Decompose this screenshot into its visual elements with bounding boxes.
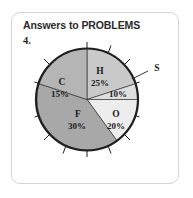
pie-chart: H 25% C 15% F 30% O 20% 10% S xyxy=(26,39,178,159)
slice-label-c-value: 15% xyxy=(51,89,69,99)
slice-label-h-value: 25% xyxy=(91,78,109,88)
page-root: Answers to PROBLEMS 4. xyxy=(0,0,193,198)
slice-label-o-key: O xyxy=(112,109,119,119)
slice-label-f-value: 30% xyxy=(68,121,86,131)
slice-label-c-key: C xyxy=(59,77,66,87)
pie-chart-svg: H 25% C 15% F 30% O 20% 10% S xyxy=(26,39,178,159)
slice-label-f-key: F xyxy=(75,109,81,119)
slice-label-o-value: 20% xyxy=(107,121,125,131)
slice-label-s-key: S xyxy=(154,63,159,73)
slice-label-s-value: 10% xyxy=(109,89,127,99)
slice-s-leader-line xyxy=(132,71,148,79)
slice-label-h-key: H xyxy=(96,66,104,76)
answers-card: Answers to PROBLEMS 4. xyxy=(11,12,179,184)
page-title: Answers to PROBLEMS xyxy=(23,19,140,31)
